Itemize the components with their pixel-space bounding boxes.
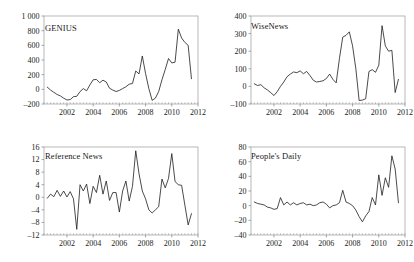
y-tick-label: 0	[243, 82, 247, 91]
chart-panel-wisenews: WiseNews –100010020030040020022004200620…	[207, 0, 414, 131]
x-tick-label: 2008	[138, 239, 154, 248]
y-tick-label: –12	[27, 231, 40, 240]
x-tick-label: 2012	[190, 239, 206, 248]
x-tick-label: 2006	[318, 239, 334, 248]
y-tick-label: 200	[28, 71, 40, 80]
y-tick-label: 0	[36, 193, 40, 202]
x-tick-label: 2008	[345, 108, 361, 117]
x-tick-label: 2010	[371, 239, 387, 248]
x-tick-label: 2006	[318, 108, 334, 117]
x-tick-label: 2006	[111, 108, 127, 117]
y-tick-label: 100	[235, 65, 247, 74]
y-tick-label: 600	[28, 41, 40, 50]
y-tick-label: 800	[28, 27, 40, 36]
chart-panel-reference-news: Reference News –12–8–4048121620022004200…	[0, 131, 207, 262]
panel-title-genius: GENIUS	[45, 24, 77, 33]
x-tick-label: 2010	[164, 239, 180, 248]
y-tick-label: 8	[36, 168, 40, 177]
y-tick-label: –8	[31, 218, 40, 227]
x-tick-label: 2010	[371, 108, 387, 117]
y-tick-label: –20	[234, 216, 247, 225]
data-series-line	[47, 29, 191, 100]
y-tick-label: 400	[28, 56, 40, 65]
x-tick-label: 2012	[397, 108, 413, 117]
x-tick-label: 2002	[266, 239, 282, 248]
x-tick-label: 2002	[59, 108, 75, 117]
panel-title-wisenews: WiseNews	[251, 22, 288, 31]
x-tick-label: 2002	[266, 108, 282, 117]
y-tick-label: –4	[31, 206, 40, 215]
data-series-line	[254, 156, 398, 222]
x-tick-label: 2004	[292, 239, 308, 248]
y-tick-label: 0	[243, 202, 247, 211]
chart-svg-reference-news: –12–8–40481216200220042006200820102012	[0, 131, 207, 262]
x-tick-label: 2008	[138, 108, 154, 117]
panel-title-reference-news: Reference News	[45, 152, 102, 161]
y-tick-label: 16	[32, 143, 40, 152]
y-tick-label: 1 000	[22, 12, 40, 21]
x-tick-label: 2002	[59, 239, 75, 248]
y-tick-label: –200	[23, 100, 40, 109]
data-series-line	[254, 26, 398, 101]
x-tick-label: 2006	[111, 239, 127, 248]
x-tick-label: 2012	[397, 239, 413, 248]
y-tick-label: 400	[235, 12, 247, 21]
y-tick-label: 60	[239, 158, 247, 167]
y-tick-label: 40	[239, 172, 247, 181]
x-tick-label: 2012	[190, 108, 206, 117]
data-series-line	[47, 151, 191, 230]
y-tick-label: 20	[239, 187, 247, 196]
y-tick-label: 4	[36, 181, 40, 190]
chart-panel-genius: GENIUS –20002004006008001 00020022004200…	[0, 0, 207, 131]
multi-panel-figure: GENIUS –20002004006008001 00020022004200…	[0, 0, 414, 262]
chart-panel-peoples-daily: People's Daily –40–200204060802002200420…	[207, 131, 414, 262]
chart-svg-wisenews: –100010020030040020022004200620082010201…	[207, 0, 414, 131]
x-tick-label: 2004	[292, 108, 308, 117]
y-tick-label: –100	[230, 100, 247, 109]
y-tick-label: 0	[36, 85, 40, 94]
x-tick-label: 2004	[85, 108, 101, 117]
y-tick-label: 80	[239, 143, 247, 152]
x-tick-label: 2010	[164, 108, 180, 117]
y-tick-label: 300	[235, 30, 247, 39]
y-tick-label: 200	[235, 47, 247, 56]
x-tick-label: 2008	[345, 239, 361, 248]
chart-svg-peoples-daily: –40–20020406080200220042006200820102012	[207, 131, 414, 262]
y-tick-label: –40	[234, 231, 247, 240]
y-tick-label: 12	[32, 155, 40, 164]
chart-svg-genius: –20002004006008001 000200220042006200820…	[0, 0, 207, 131]
x-tick-label: 2004	[85, 239, 101, 248]
panel-title-peoples-daily: People's Daily	[251, 152, 301, 161]
